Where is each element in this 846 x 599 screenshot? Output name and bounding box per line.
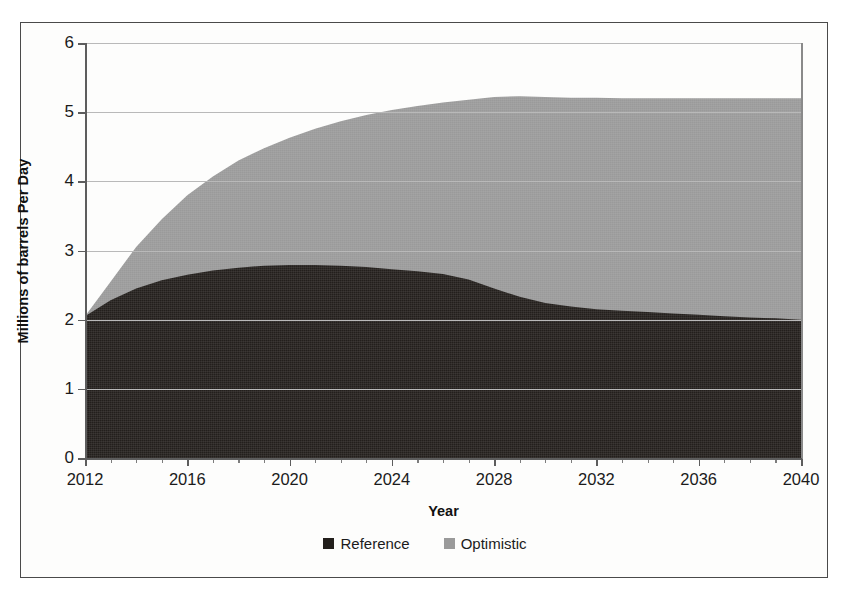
- y-tick-label: 1: [65, 379, 74, 399]
- y-tick-label: 4: [65, 171, 74, 191]
- y-tick-mark: [78, 251, 85, 253]
- x-axis-title: Year: [85, 503, 802, 519]
- x-tick-label-2024: 2024: [373, 470, 410, 489]
- y-tick-label: 6: [65, 33, 74, 53]
- plot-area: 0123456 20122016202020242028203220362040: [85, 43, 801, 458]
- x-tick-label-2032: 2032: [578, 470, 615, 489]
- x-tick-label-2016: 2016: [169, 470, 206, 489]
- y-axis-line: [85, 43, 87, 459]
- x-tick-label-2012: 2012: [67, 470, 104, 489]
- y-axis-title: Millions of barrels Per Day: [15, 159, 31, 344]
- legend-item-reference[interactable]: Reference: [323, 535, 409, 552]
- gridline-y-1: [85, 389, 801, 390]
- x-tick-label-2036: 2036: [680, 470, 717, 489]
- y-tick-label: 5: [65, 102, 74, 122]
- x-tick-label-2020: 2020: [271, 470, 308, 489]
- y-tick-label: 3: [65, 241, 74, 261]
- plot-right-border: [801, 43, 803, 459]
- plot-canvas: [85, 43, 801, 458]
- y-tick-mark: [78, 458, 85, 460]
- gridline-y-3: [85, 251, 801, 252]
- legend-label: Reference: [340, 535, 409, 552]
- gridline-y-2: [85, 320, 801, 321]
- figure-frame: Millions of barrels Per Day 0123456 2012…: [20, 22, 828, 578]
- x-tick-label-2040: 2040: [783, 470, 820, 489]
- y-tick-label: 2: [65, 310, 74, 330]
- y-tick-mark: [78, 43, 85, 45]
- y-tick-mark: [78, 389, 85, 391]
- y-tick-mark: [78, 320, 85, 322]
- gridline-y-4: [85, 181, 801, 182]
- x-tick-label-2028: 2028: [476, 470, 513, 489]
- chart-legend: ReferenceOptimistic: [21, 535, 829, 552]
- x-axis-line: [85, 458, 802, 460]
- legend-swatch-icon: [444, 538, 455, 549]
- legend-item-optimistic[interactable]: Optimistic: [444, 535, 527, 552]
- y-tick-mark: [78, 112, 85, 114]
- y-tick-mark: [78, 181, 85, 183]
- legend-label: Optimistic: [461, 535, 527, 552]
- gridline-y-6: [85, 43, 801, 44]
- legend-swatch-icon: [323, 538, 334, 549]
- y-tick-label: 0: [65, 448, 74, 468]
- gridline-y-5: [85, 112, 801, 113]
